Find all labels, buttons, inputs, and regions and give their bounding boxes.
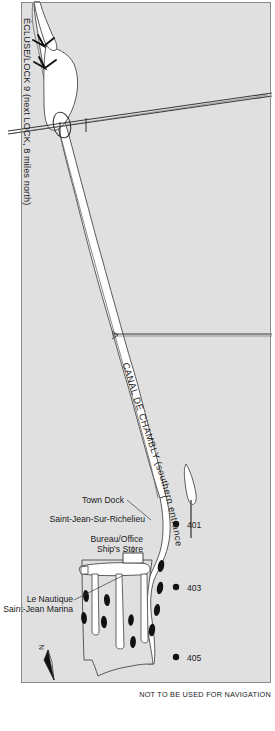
marina-label-line1: Le Nautique (27, 594, 74, 604)
nautical-chart: 401 403 405 ÉCLUSE/LOCK 9 (next LOCK, 8 … (0, 0, 275, 731)
buoy-405-label: 405 (187, 653, 201, 663)
north-arrow-label: N (37, 644, 46, 650)
city-label: Saint-Jean-Sur-Richelieu (49, 514, 145, 524)
buoy-403-marker (173, 584, 179, 590)
lock-label: ÉCLUSE/LOCK 9 (next LOCK, 8 miles north) (22, 18, 32, 205)
ships-store-label-line2: Ship's Store (97, 544, 143, 554)
buoy-401-label: 401 (187, 520, 201, 530)
marina-bulkhead (79, 563, 150, 576)
buoy-405-marker (173, 654, 179, 660)
town-dock-label: Town Dock (82, 495, 125, 505)
ships-store-label-line1: Bureau/Office (91, 534, 144, 544)
chart-map-canvas: 401 403 405 ÉCLUSE/LOCK 9 (next LOCK, 8 … (0, 0, 275, 731)
ships-store-building (123, 553, 143, 563)
navigation-disclaimer: NOT TO BE USED FOR NAVIGATION (0, 690, 271, 699)
town-dock-shape (81, 566, 88, 574)
marina-label-line2: Saint-Jean Marina (3, 604, 73, 614)
buoy-403-label: 403 (187, 583, 201, 593)
